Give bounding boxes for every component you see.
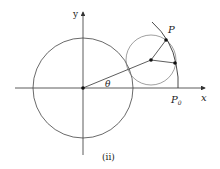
- point-p-label: P: [167, 24, 175, 35]
- y-axis-label: y: [72, 9, 79, 19]
- caption: (ii): [102, 152, 115, 162]
- radius-to-p: [151, 40, 166, 60]
- contact-point: [173, 61, 177, 65]
- origin-point: [81, 86, 85, 90]
- angle-label: θ: [105, 79, 111, 89]
- point-p0-label: P0: [170, 94, 182, 106]
- x-axis-label: x: [201, 92, 207, 103]
- radius-to-contact: [151, 60, 175, 63]
- point-p: [164, 38, 168, 42]
- epicycloid-diagram: y x P θ P0 (ii): [0, 0, 220, 169]
- rolling-center-point: [149, 58, 153, 62]
- center-line: [83, 60, 151, 88]
